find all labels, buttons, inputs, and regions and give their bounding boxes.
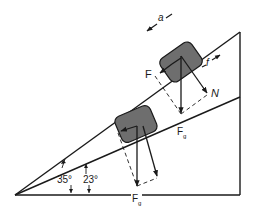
angle-label-35: 35° xyxy=(57,175,72,185)
gravity-label-lower: Fg xyxy=(131,194,142,206)
friction-label: f xyxy=(206,58,209,68)
angle-arrowhead-23-base xyxy=(87,189,91,193)
applied-force-label: F xyxy=(145,69,152,80)
diagram-canvas: a F f N Fg Fg 35° 23° xyxy=(0,0,254,211)
angle-label-23: 23° xyxy=(83,175,98,185)
acceleration-label: a xyxy=(158,13,164,23)
incline-23-surface xyxy=(15,97,240,195)
gravity-label-upper: Fg xyxy=(177,127,186,139)
angle-arrowhead-35-base xyxy=(69,189,73,193)
lower-block xyxy=(113,104,159,145)
normal-force-label: N xyxy=(211,88,219,99)
